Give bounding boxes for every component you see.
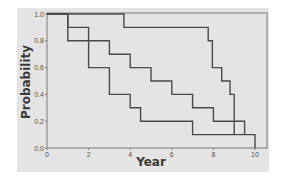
x-tick-label: 4	[128, 151, 132, 158]
data-series	[47, 14, 255, 148]
y-axis-title: Probability	[19, 45, 33, 119]
y-tick-label: 0.0	[34, 145, 44, 152]
y-tick-label: 0.8	[34, 37, 44, 44]
x-tick-label: 8	[211, 151, 215, 158]
y-tick-label: 0.4	[34, 91, 44, 98]
y-tick-label: 0.2	[34, 118, 44, 125]
y-tick-label: 0.6	[34, 64, 44, 71]
x-tick-label: 6	[170, 151, 174, 158]
x-tick-label: 0	[45, 151, 49, 158]
x-axis-title: Year	[135, 155, 166, 169]
step-line-curve-2	[47, 14, 245, 135]
step-chart: 0.00.20.40.60.81.00246810 Year Probabili…	[0, 0, 281, 184]
x-tick-label: 2	[87, 151, 91, 158]
y-tick-label: 1.0	[34, 11, 44, 18]
x-tick-label: 10	[251, 151, 259, 158]
